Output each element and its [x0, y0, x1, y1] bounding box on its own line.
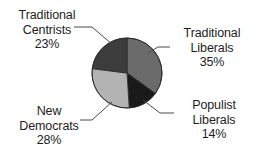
slice-label-line1: Traditional: [4, 8, 90, 23]
slice-label-line2: Democrats: [6, 119, 92, 134]
slice-label-line2: Centrists: [4, 23, 90, 38]
slice-label-line1: Traditional: [172, 26, 252, 41]
slice-value: 14%: [176, 127, 252, 142]
pie-chart-figure: Traditional Centrists 23% Traditional Li…: [0, 0, 253, 160]
slice-label-traditional-centrists: Traditional Centrists 23%: [4, 8, 90, 52]
slice-value: 28%: [6, 133, 92, 148]
slice-label-line2: Liberals: [176, 113, 252, 128]
pie-slice-traditional-centrists: [92, 38, 127, 73]
leader-line-populist-liberals: [143, 100, 174, 113]
slice-label-populist-liberals: Populist Liberals 14%: [176, 98, 252, 142]
slice-label-line1: New: [6, 104, 92, 119]
slice-label-traditional-liberals: Traditional Liberals 35%: [172, 26, 252, 70]
slice-label-line2: Liberals: [172, 41, 252, 56]
slice-label-line1: Populist: [176, 98, 252, 113]
pie-slice-new-democrats: [92, 69, 129, 108]
slice-value: 35%: [172, 55, 252, 70]
slice-value: 23%: [4, 37, 90, 52]
slice-label-new-democrats: New Democrats 28%: [6, 104, 92, 148]
